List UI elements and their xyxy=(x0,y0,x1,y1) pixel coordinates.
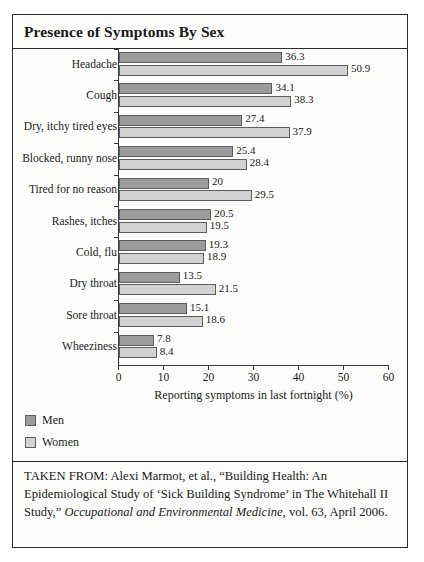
bar-value-men: 20 xyxy=(212,176,223,187)
bar-value-women: 37.9 xyxy=(293,126,312,137)
bar-group: Headache36.350.9 xyxy=(13,49,407,80)
bar-value-women: 29.5 xyxy=(255,189,274,200)
legend-label-men: Men xyxy=(42,414,64,426)
x-axis-tick xyxy=(343,365,344,370)
x-axis-tick xyxy=(118,365,119,370)
bar-men xyxy=(119,146,233,157)
category-label: Cold, flu xyxy=(76,247,117,259)
x-axis-tick-label: 50 xyxy=(338,372,350,384)
category-label: Dry throat xyxy=(69,279,117,291)
bar-value-men: 13.5 xyxy=(183,270,202,281)
bar-women xyxy=(119,190,252,201)
bar-value-women: 38.3 xyxy=(294,94,313,105)
x-axis-tick-label: 60 xyxy=(383,372,395,384)
bar-group: Cough34.138.3 xyxy=(13,80,407,111)
legend-swatch-women xyxy=(25,437,36,448)
x-axis-tick-label: 0 xyxy=(116,372,122,384)
bar-group: Rashes, itches20.519.5 xyxy=(13,206,407,237)
category-label: Headache xyxy=(72,59,117,71)
bar-women xyxy=(119,347,157,358)
bar-men xyxy=(119,240,206,251)
bar-women xyxy=(119,284,216,295)
chart-legend: MenWomen xyxy=(25,411,79,455)
x-axis-tick xyxy=(208,365,209,370)
bar-men xyxy=(119,335,154,346)
bar-value-men: 20.5 xyxy=(214,208,233,219)
category-label: Blocked, runny nose xyxy=(22,153,117,165)
page-title: Presence of Symptoms By Sex xyxy=(24,23,224,41)
bar-women xyxy=(119,127,290,138)
bar-women xyxy=(119,253,204,264)
bar-women xyxy=(119,222,207,233)
chart-plot-area: Headache36.350.9Cough34.138.3Dry, itchy … xyxy=(13,49,407,389)
category-label: Tired for no reason xyxy=(29,185,117,197)
bar-value-men: 25.4 xyxy=(236,145,255,156)
bar-value-women: 21.5 xyxy=(219,283,238,294)
x-axis-tick xyxy=(388,365,389,370)
bar-men xyxy=(119,83,272,94)
bar-men xyxy=(119,52,282,63)
legend-item-men: Men xyxy=(25,411,79,429)
bar-group: Wheeziness7.88.4 xyxy=(13,332,407,363)
x-axis-tick xyxy=(163,365,164,370)
bar-value-women: 8.4 xyxy=(160,346,174,357)
bar-value-women: 18.9 xyxy=(207,251,226,262)
y-axis-line xyxy=(118,49,119,365)
category-label: Dry, itchy tired eyes xyxy=(24,122,117,134)
bar-value-women: 50.9 xyxy=(351,63,370,74)
bar-women xyxy=(119,159,247,170)
bar-group: Tired for no reason2029.5 xyxy=(13,175,407,206)
source-divider xyxy=(13,461,407,462)
x-axis-tick-label: 20 xyxy=(203,372,215,384)
bar-group: Cold, flu19.318.9 xyxy=(13,237,407,268)
bar-value-men: 15.1 xyxy=(190,302,209,313)
legend-swatch-men xyxy=(25,415,36,426)
bar-women xyxy=(119,316,203,327)
x-axis-title: Reporting symptoms in last fortnight (%) xyxy=(118,388,389,403)
bar-group: Blocked, runny nose25.428.4 xyxy=(13,143,407,174)
bar-men xyxy=(119,303,187,314)
bar-group: Dry, itchy tired eyes27.437.9 xyxy=(13,112,407,143)
x-axis-tick xyxy=(298,365,299,370)
category-label: Wheeziness xyxy=(62,342,117,354)
bar-value-men: 7.8 xyxy=(157,333,171,344)
bar-value-women: 18.6 xyxy=(206,314,225,325)
bar-value-men: 27.4 xyxy=(245,113,264,124)
bar-women xyxy=(119,65,348,76)
bar-men xyxy=(119,178,209,189)
x-axis-tick-label: 30 xyxy=(248,372,260,384)
bar-group: Sore throat15.118.6 xyxy=(13,300,407,331)
bar-value-men: 34.1 xyxy=(275,82,294,93)
bar-value-women: 28.4 xyxy=(250,157,269,168)
x-axis-tick-label: 10 xyxy=(158,372,170,384)
bar-men xyxy=(119,209,211,220)
bar-group: Dry throat13.521.5 xyxy=(13,269,407,300)
bar-men xyxy=(119,272,180,283)
source-journal: Occupational and Environmental Medicine xyxy=(64,505,282,519)
legend-item-women: Women xyxy=(25,433,79,451)
x-axis-tick xyxy=(253,365,254,370)
bar-value-men: 19.3 xyxy=(209,239,228,250)
x-axis-tick-label: 40 xyxy=(293,372,305,384)
source-note: TAKEN FROM: Alexi Marmot, et al., “Build… xyxy=(24,468,398,522)
source-suffix: , vol. 63, April 2006. xyxy=(283,505,388,519)
category-label: Sore throat xyxy=(66,310,117,322)
category-label: Cough xyxy=(86,90,117,102)
category-label: Rashes, itches xyxy=(52,216,117,228)
bar-value-women: 19.5 xyxy=(210,220,229,231)
legend-label-women: Women xyxy=(42,436,79,448)
bar-men xyxy=(119,115,242,126)
figure-panel: Presence of Symptoms By Sex Headache36.3… xyxy=(12,14,408,548)
bar-value-men: 36.3 xyxy=(285,51,304,62)
bar-women xyxy=(119,96,291,107)
